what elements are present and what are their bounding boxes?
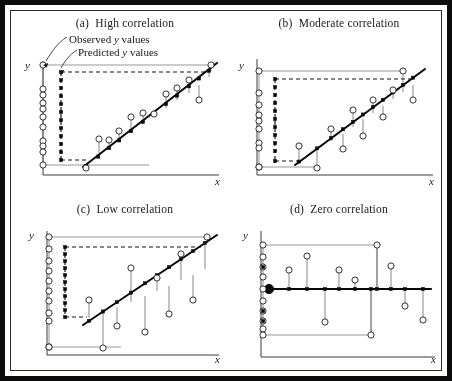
panel-b-axes xyxy=(257,59,433,175)
panel-b-marginal-predicted xyxy=(274,78,277,163)
panel-d-axes xyxy=(261,231,435,357)
panel-c-low-correlation: (c) Low correlation y x xyxy=(21,201,229,381)
figure-caption xyxy=(17,362,452,370)
figure-outer-border: (a) High correlation y x Observed y valu… xyxy=(0,0,452,381)
panel-b-moderate-correlation: (b) Moderate correlation y x xyxy=(235,15,443,195)
figure-inner-border: (a) High correlation y x Observed y valu… xyxy=(10,10,442,371)
panel-a-regression-line xyxy=(83,63,217,167)
panel-c-observed-markers xyxy=(46,234,210,351)
panel-a-callout-arrows xyxy=(43,37,77,74)
panel-d-zero-correlation: (d) Zero correlation y x xyxy=(235,201,443,381)
panel-b-regression-line xyxy=(295,69,425,165)
panel-a-plot xyxy=(21,15,229,195)
panel-d-predicted-markers xyxy=(287,287,424,290)
panel-b-observed-markers xyxy=(256,68,416,171)
panel-b-plot xyxy=(235,15,443,195)
panel-b-residual-lines xyxy=(299,79,413,167)
panel-a-high-correlation: (a) High correlation y x Observed y valu… xyxy=(21,15,229,195)
panel-d-marginal-observed xyxy=(260,242,266,338)
panel-c-plot xyxy=(21,201,229,381)
panel-d-plot xyxy=(235,201,443,381)
